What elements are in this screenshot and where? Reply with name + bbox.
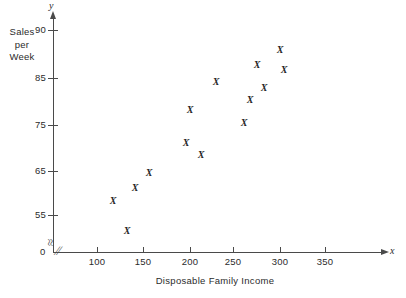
data-point-marker: X xyxy=(252,59,262,71)
data-point-marker: X xyxy=(130,182,140,194)
data-point-marker: X xyxy=(275,44,285,56)
data-point-marker: X xyxy=(211,76,221,88)
data-point-marker: X xyxy=(122,225,132,237)
plot-area: XXXXXXXXXXXXXX xyxy=(0,0,406,298)
data-point-marker: X xyxy=(279,64,289,76)
data-point-marker: X xyxy=(181,137,191,149)
scatter-plot-figure: y x 0 ≈ ∕∕ Sales per Week Disposable Fam… xyxy=(0,0,406,298)
data-point-marker: X xyxy=(144,167,154,179)
data-point-marker: X xyxy=(185,104,195,116)
data-point-marker: X xyxy=(108,195,118,207)
data-point-marker: X xyxy=(196,149,206,161)
data-point-marker: X xyxy=(239,117,249,129)
data-point-marker: X xyxy=(259,82,269,94)
data-point-marker: X xyxy=(245,94,255,106)
